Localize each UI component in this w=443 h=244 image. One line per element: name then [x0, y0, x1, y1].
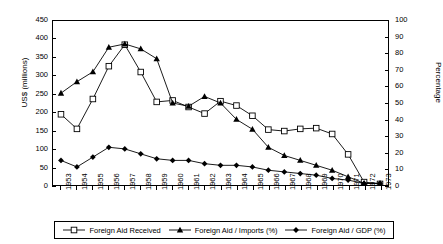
data-point: [266, 127, 272, 133]
x-axis-tick: [108, 186, 109, 190]
legend-marker-filled-triangle-icon: [168, 225, 192, 235]
y-axis-left-tick: [52, 112, 56, 113]
data-point: [201, 93, 207, 99]
x-axis-tick-label: 1965: [256, 160, 265, 190]
y-axis-right-tick-label: 50: [395, 99, 425, 107]
x-axis-tick: [381, 186, 382, 190]
data-point: [281, 152, 287, 158]
data-point: [154, 55, 160, 61]
y-axis-left-tick: [52, 94, 56, 95]
x-axis-tick: [124, 186, 125, 190]
y-axis-left-tick-label: 250: [18, 90, 48, 98]
x-axis-tick: [204, 186, 205, 190]
y-axis-left-tick-label: 100: [18, 145, 48, 153]
x-axis-tick: [188, 186, 189, 190]
x-axis-tick: [172, 186, 173, 190]
y-axis-right-tick-label: 90: [395, 33, 425, 41]
y-axis-left-tick-label: 50: [18, 164, 48, 172]
x-axis-tick: [333, 186, 334, 190]
y-axis-right-tick-label: 100: [395, 16, 425, 24]
data-point: [90, 69, 96, 75]
x-axis-tick-label: 1960: [176, 160, 185, 190]
x-axis-tick: [269, 186, 270, 190]
x-axis-tick-label: 1968: [304, 160, 313, 190]
data-point: [234, 162, 240, 168]
x-axis-tick: [285, 186, 286, 190]
y-axis-right-tick: [385, 53, 389, 54]
x-axis-tick-label: 1969: [320, 160, 329, 190]
y-axis-left-tick: [52, 20, 56, 21]
x-axis-tick: [365, 186, 366, 190]
chart-container: US$ (millions) Percentage 05010015020025…: [0, 0, 443, 244]
y-axis-right-tick-label: 20: [395, 149, 425, 157]
y-axis-right-tick-label: 0: [395, 182, 425, 190]
x-axis-tick-label: 1967: [288, 160, 297, 190]
data-point: [90, 154, 96, 160]
x-axis-tick: [156, 186, 157, 190]
x-axis-tick-label: 1957: [128, 160, 137, 190]
data-point: [250, 113, 256, 119]
y-axis-left-tick-label: 0: [18, 182, 48, 190]
y-axis-left-tick: [52, 186, 56, 187]
y-axis-left-tick-label: 350: [18, 53, 48, 61]
data-point: [313, 125, 319, 131]
data-point: [90, 96, 96, 102]
data-point: [154, 156, 160, 162]
y-axis-right-tick-label: 80: [395, 49, 425, 57]
data-point: [234, 103, 240, 109]
y-axis-left-tick: [52, 75, 56, 76]
y-axis-right-title: Percentage: [434, 23, 443, 143]
x-axis-tick-label: 1956: [112, 160, 121, 190]
x-axis-tick-label: 1955: [96, 160, 105, 190]
y-axis-right-tick: [385, 70, 389, 71]
y-axis-right-tick: [385, 136, 389, 137]
data-point: [345, 152, 351, 158]
x-axis-tick: [221, 186, 222, 190]
data-point: [186, 158, 192, 164]
data-point: [313, 172, 319, 178]
y-axis-left-tick-label: 200: [18, 108, 48, 116]
data-point: [58, 112, 64, 118]
y-axis-right-tick: [385, 37, 389, 38]
x-axis-tick: [140, 186, 141, 190]
chart-legend: Foreign Aid ReceivedForeign Aid / Import…: [54, 221, 394, 239]
x-axis-tick-label: 1959: [160, 160, 169, 190]
data-point: [138, 151, 144, 157]
x-axis-tick-label: 1964: [240, 160, 249, 190]
data-point: [106, 63, 112, 69]
data-point: [170, 158, 176, 164]
y-axis-right-tick-label: 60: [395, 82, 425, 90]
y-axis-left-tick: [52, 131, 56, 132]
data-point: [122, 146, 128, 152]
data-point: [74, 78, 80, 84]
data-point: [329, 131, 335, 137]
data-point: [58, 90, 64, 96]
y-axis-left-tick-label: 150: [18, 127, 48, 135]
x-axis-tick-label: 1963: [224, 160, 233, 190]
data-point: [154, 99, 160, 105]
legend-label: Foreign Aid / GDP (%): [311, 226, 385, 235]
y-axis-right-tick: [385, 20, 389, 21]
data-point: [282, 128, 288, 134]
x-axis-tick-label: 1962: [208, 160, 217, 190]
x-axis-tick-label: 1971: [352, 160, 361, 190]
legend-label: Foreign Aid / Imports (%): [195, 226, 278, 235]
x-axis-tick-label: 1958: [144, 160, 153, 190]
data-point: [218, 162, 224, 168]
y-axis-right-tick-label: 40: [395, 116, 425, 124]
legend-item-1: Foreign Aid Received: [62, 225, 160, 235]
y-axis-left-tick-label: 300: [18, 71, 48, 79]
y-axis-left-tick-label: 400: [18, 34, 48, 42]
data-point: [265, 167, 271, 173]
x-axis-tick: [301, 186, 302, 190]
series-3: [58, 144, 383, 185]
x-axis-tick: [237, 186, 238, 190]
y-axis-left-tick: [52, 149, 56, 150]
x-axis-tick-label: 1972: [368, 160, 377, 190]
x-axis-tick: [317, 186, 318, 190]
y-axis-left-tick: [52, 168, 56, 169]
data-point: [250, 164, 256, 170]
legend-label: Foreign Aid Received: [89, 226, 160, 235]
y-axis-right-tick-label: 70: [395, 66, 425, 74]
y-axis-right-tick: [385, 86, 389, 87]
